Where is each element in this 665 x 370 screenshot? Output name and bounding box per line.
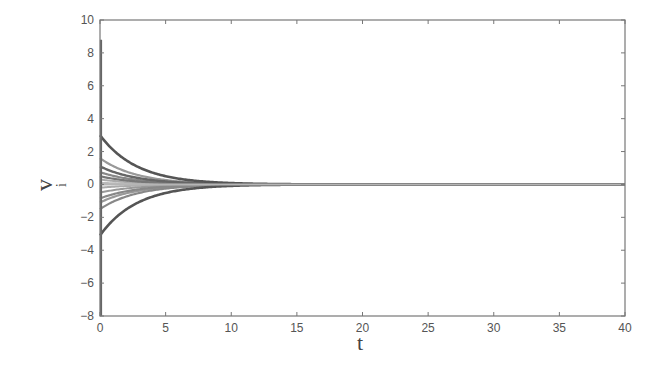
chart: 0510152025303540−8−6−4−20246810 t v i	[0, 0, 665, 370]
x-tick-label: 10	[225, 321, 239, 335]
y-tick-label: 8	[87, 46, 94, 60]
y-tick-label: 2	[87, 145, 94, 159]
y-tick-label: −2	[80, 210, 94, 224]
tick-labels: 0510152025303540−8−6−4−20246810	[80, 13, 632, 335]
x-tick-label: 30	[487, 321, 501, 335]
series-line-v12	[100, 184, 625, 209]
series-line-v1	[100, 135, 625, 184]
y-tick-label: 4	[87, 112, 94, 126]
y-tick-label: 10	[81, 13, 95, 27]
x-tick-label: 15	[290, 321, 304, 335]
y-tick-label: −6	[80, 276, 94, 290]
axes	[100, 20, 625, 316]
x-tick-label: 35	[553, 321, 567, 335]
svg-text:i: i	[54, 183, 69, 187]
data-series-group	[100, 40, 625, 316]
plot-frame	[100, 20, 625, 316]
y-tick-label: 0	[87, 177, 94, 191]
y-tick-label: 6	[87, 79, 94, 93]
x-tick-label: 5	[162, 321, 169, 335]
series-line-v13	[100, 184, 625, 235]
x-axis-title: t	[357, 330, 363, 355]
x-tick-label: 0	[97, 321, 104, 335]
y-tick-label: −4	[80, 243, 94, 257]
series-line-v3	[100, 166, 625, 184]
x-tick-label: 25	[421, 321, 435, 335]
x-tick-label: 40	[618, 321, 632, 335]
series-line-v2	[100, 158, 625, 184]
y-tick-label: −8	[80, 309, 94, 323]
y-axis-title: v i	[31, 179, 69, 191]
